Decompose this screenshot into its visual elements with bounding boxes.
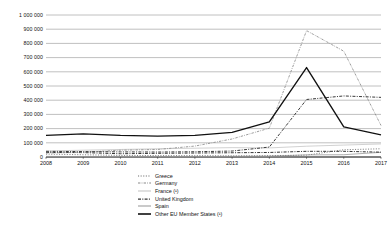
legend-label: Greece (155, 173, 173, 179)
series-line (46, 144, 381, 151)
x-axis-tick-label: 2014 (253, 160, 285, 166)
legend-item[interactable]: Spain (138, 202, 288, 210)
gridlines (46, 15, 381, 157)
legend-label: United Kingdom (155, 196, 193, 202)
legend-item[interactable]: France (¹) (138, 187, 288, 195)
legend-line-swatch (138, 180, 151, 186)
series-lines (46, 31, 381, 157)
x-axis-tick-label: 2016 (328, 160, 360, 166)
legend-item[interactable]: Germany (138, 180, 288, 188)
legend-label: Other EU Member States (¹) (155, 211, 222, 217)
legend-line-swatch (138, 196, 151, 202)
legend-line-swatch (138, 211, 151, 217)
legend-line-swatch (138, 173, 151, 179)
x-axis-tick-label: 2008 (30, 160, 62, 166)
series-line (46, 96, 381, 152)
legend-item[interactable]: Other EU Member States (¹) (138, 210, 288, 218)
x-axis-tick-label: 2009 (67, 160, 99, 166)
legend-line-swatch (138, 203, 151, 209)
series-line (46, 68, 381, 137)
x-axis-tick-label: 2017 (365, 160, 391, 166)
chart-legend: GreeceGermanyFrance (¹)United KingdomSpa… (138, 172, 288, 218)
axis-lines (46, 157, 381, 159)
legend-item[interactable]: Greece (138, 172, 288, 180)
x-axis-tick-label: 2012 (179, 160, 211, 166)
legend-label: Spain (155, 203, 169, 209)
legend-label: France (¹) (155, 188, 179, 194)
x-axis-tick-label: 2011 (142, 160, 174, 166)
x-axis-tick-label: 2010 (104, 160, 136, 166)
x-axis-tick-label: 2013 (216, 160, 248, 166)
line-chart: 0100 000200 000300 000400 000500 000600 … (0, 0, 391, 230)
x-axis-tick-label: 2015 (291, 160, 323, 166)
legend-label: Germany (155, 180, 177, 186)
legend-line-swatch (138, 188, 151, 194)
legend-item[interactable]: United Kingdom (138, 195, 288, 203)
